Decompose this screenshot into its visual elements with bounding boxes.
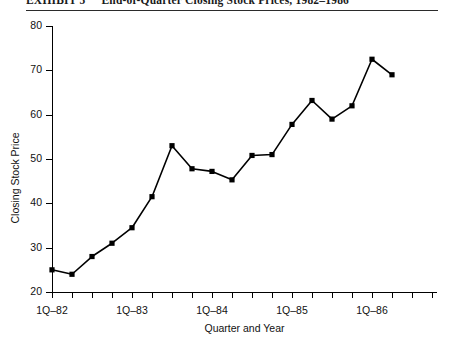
data-point-marker xyxy=(69,272,74,277)
chart-plot-area: 20304050607080 1Q–821Q–831Q–841Q–851Q–86… xyxy=(0,0,455,350)
series-markers xyxy=(49,57,394,277)
data-point-marker xyxy=(249,153,254,158)
data-point-marker xyxy=(189,166,194,171)
data-point-marker xyxy=(369,57,374,62)
data-point-marker xyxy=(49,267,54,272)
data-point-marker xyxy=(329,117,334,122)
data-point-marker xyxy=(349,103,354,108)
data-point-marker xyxy=(309,98,314,103)
data-point-marker xyxy=(389,72,394,77)
data-point-marker xyxy=(89,254,94,259)
data-point-marker xyxy=(269,152,274,157)
data-series-line xyxy=(0,0,455,350)
series-polyline xyxy=(52,59,392,274)
data-point-marker xyxy=(169,143,174,148)
data-point-marker xyxy=(149,194,154,199)
data-point-marker xyxy=(129,225,134,230)
data-point-marker xyxy=(289,122,294,127)
data-point-marker xyxy=(109,241,114,246)
data-point-marker xyxy=(209,169,214,174)
data-point-marker xyxy=(229,177,234,182)
